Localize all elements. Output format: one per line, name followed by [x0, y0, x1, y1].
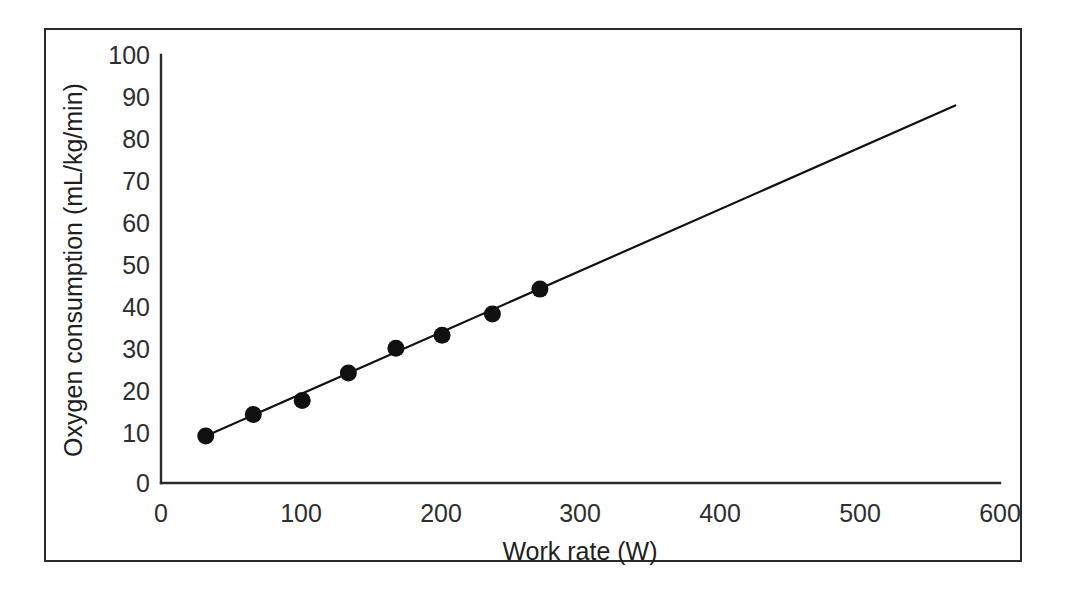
- data-point: [294, 392, 311, 409]
- x-tick-label: 500: [839, 499, 881, 527]
- y-tick-label: 0: [136, 469, 150, 497]
- y-tick-label: 100: [108, 41, 150, 69]
- data-point: [484, 305, 501, 322]
- data-point: [531, 281, 548, 298]
- chart-canvas: Oxygen consumption (mL/kg/min) 100 90 80…: [0, 0, 1066, 590]
- y-tick-label: 80: [122, 125, 150, 153]
- x-axis-title: Work rate (W): [502, 537, 657, 565]
- y-tick-label: 40: [122, 293, 150, 321]
- x-tick-label: 200: [420, 499, 462, 527]
- y-tick-label: 50: [122, 251, 150, 279]
- y-axis-title: Oxygen consumption (mL/kg/min): [59, 83, 87, 457]
- y-tick-label: 20: [122, 377, 150, 405]
- y-tick-label: 30: [122, 335, 150, 363]
- y-tick-label: 60: [122, 209, 150, 237]
- data-series-layer: [197, 106, 955, 445]
- data-point: [197, 427, 214, 444]
- y-tick-label: 70: [122, 167, 150, 195]
- data-point: [387, 340, 404, 357]
- x-tick-label: 0: [154, 499, 168, 527]
- x-tick-label: 400: [699, 499, 741, 527]
- data-point: [434, 327, 451, 344]
- data-point: [245, 406, 262, 423]
- x-axis-tick-labels: 0 100 200 300 400 500 600: [154, 499, 1021, 527]
- x-tick-label: 300: [559, 499, 601, 527]
- y-axis-tick-labels: 100 90 80 70 60 50 40 30 20 10 0: [108, 41, 150, 497]
- data-point: [340, 365, 357, 382]
- y-tick-label: 10: [122, 419, 150, 447]
- x-tick-label: 100: [280, 499, 322, 527]
- trend-line: [200, 106, 955, 439]
- scatter-chart: Oxygen consumption (mL/kg/min) 100 90 80…: [0, 0, 1066, 590]
- x-tick-label: 600: [979, 499, 1021, 527]
- y-tick-label: 90: [122, 83, 150, 111]
